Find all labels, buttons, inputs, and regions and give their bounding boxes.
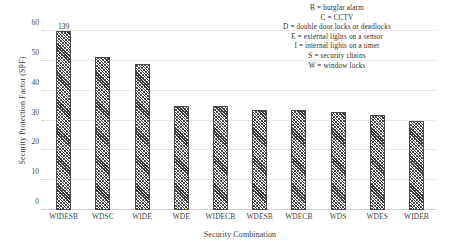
bar[interactable] [95, 57, 110, 210]
x-axis-tick-label: WDS [318, 212, 357, 221]
x-axis-tick-label: WIDE [122, 212, 161, 221]
bar-slot [122, 31, 161, 210]
bar-slot [240, 31, 279, 210]
bar-slot [358, 31, 397, 210]
y-axis-tick-label: 50 [31, 47, 39, 56]
y-axis-tick-label: 30 [31, 107, 39, 116]
y-axis-tick-label: 40 [31, 77, 39, 86]
bar[interactable]: 139 [56, 31, 71, 210]
legend-item: B = burglar alarm [215, 4, 459, 14]
y-axis-tick-label: 20 [31, 137, 39, 146]
plot-area: 0102030405060 139 [44, 31, 436, 210]
x-axis-tick-labels: WIDESBWDSCWIDEWDEWIDECBWDESBWDECBWDSWDES… [44, 212, 436, 221]
bar-slot: 139 [44, 31, 83, 210]
bar[interactable] [291, 110, 306, 210]
bar[interactable] [135, 64, 150, 210]
x-axis-title: Security Combination [44, 230, 436, 239]
bar[interactable] [213, 106, 228, 210]
x-axis-tick-label: WDECB [279, 212, 318, 221]
bar-chart: B = burglar alarm C = CCTV D = double do… [0, 0, 463, 251]
bar-slot [83, 31, 122, 210]
bar-slot [279, 31, 318, 210]
x-axis-tick-label: WIDEB [397, 212, 436, 221]
legend-item: C = CCTV [215, 14, 459, 24]
y-axis-tick-label: 60 [31, 18, 39, 27]
bar[interactable] [174, 106, 189, 210]
bar[interactable] [331, 112, 346, 210]
bar-slot [201, 31, 240, 210]
bar[interactable] [370, 115, 385, 210]
bar-value-label: 139 [58, 22, 69, 31]
x-axis-tick-label: WDSC [83, 212, 122, 221]
y-axis-title: Security Protection Factor (SPF) [18, 16, 27, 206]
x-axis-tick-label: WIDECB [201, 212, 240, 221]
bar-series: 139 [44, 31, 436, 210]
bar-slot [318, 31, 357, 210]
bar-slot [397, 31, 436, 210]
x-axis-tick-label: WDESB [240, 212, 279, 221]
y-axis-tick-label: 0 [35, 197, 39, 206]
bar[interactable] [252, 110, 267, 210]
x-axis-tick-label: WDE [162, 212, 201, 221]
x-axis-tick-label: WDES [358, 212, 397, 221]
bar-slot [162, 31, 201, 210]
y-axis-tick-label: 10 [31, 167, 39, 176]
x-axis-tick-label: WIDESB [44, 212, 83, 221]
bar[interactable] [409, 121, 424, 211]
